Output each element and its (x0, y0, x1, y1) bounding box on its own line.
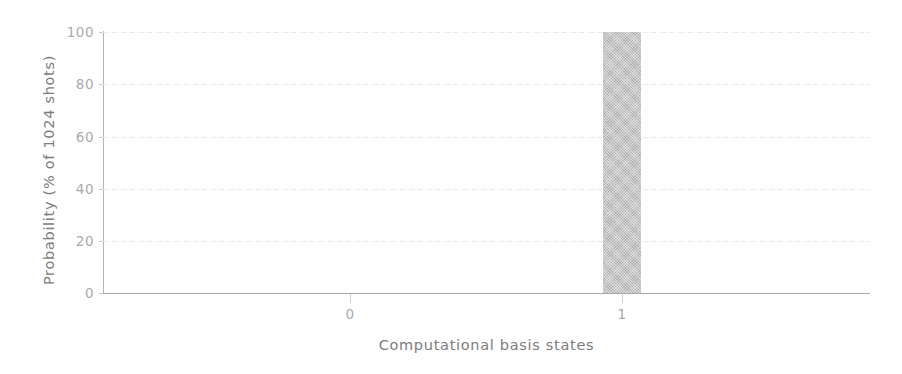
y-tick-label-60: 60 (52, 129, 94, 145)
y-tick-label-20: 20 (52, 233, 94, 249)
y-tick-label-40: 40 (52, 181, 94, 197)
bar-state-1 (603, 32, 641, 293)
histogram-figure: Probability (% of 1024 shots) 100 80 60 … (0, 0, 902, 374)
gridline-80 (103, 84, 870, 85)
y-tick-label-0: 0 (52, 285, 94, 301)
x-tick-label-1: 1 (592, 306, 652, 322)
gridline-20 (103, 241, 870, 242)
gridline-40 (103, 189, 870, 190)
x-tick-mark-0 (350, 294, 351, 303)
gridline-60 (103, 137, 870, 138)
gridline-100 (103, 32, 870, 33)
x-axis-title: Computational basis states (103, 337, 870, 353)
y-tick-label-80: 80 (52, 76, 94, 92)
x-tick-mark-1 (622, 294, 623, 303)
x-tick-label-0: 0 (320, 306, 380, 322)
plot-area (103, 32, 870, 293)
y-tick-label-100: 100 (52, 24, 94, 40)
x-axis-spine (103, 293, 870, 294)
